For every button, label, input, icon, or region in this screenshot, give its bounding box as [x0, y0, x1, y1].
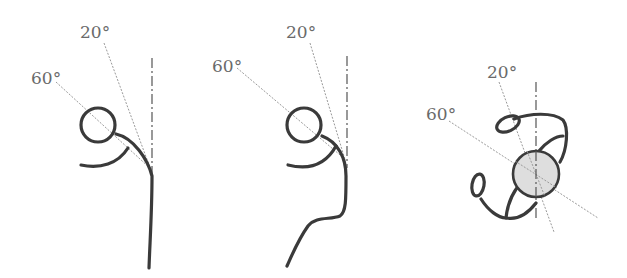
lower-hand-ellipse [470, 173, 486, 197]
arm-curve [288, 146, 336, 167]
angle-label-20: 20° [80, 22, 110, 42]
neck-spine-curve [287, 136, 346, 266]
figure-side-leaning: 20° 60° [212, 22, 347, 266]
guide-line-60deg [56, 82, 152, 170]
diagram-canvas: 20° 60° 20° 60° 20° 60° [0, 0, 627, 278]
angle-label-60: 60° [426, 104, 456, 124]
figure-side-upright: 20° 60° [31, 22, 152, 268]
angle-label-60: 60° [212, 56, 242, 76]
head-circle [81, 108, 115, 142]
guide-line-20deg [104, 43, 152, 173]
arm-curve [81, 148, 128, 166]
angle-label-20: 20° [487, 62, 517, 82]
figure-top-view: 20° 60° [426, 62, 598, 232]
upper-forearm-curve [538, 136, 563, 152]
angle-label-60: 60° [31, 68, 61, 88]
angle-label-20: 20° [286, 22, 316, 42]
